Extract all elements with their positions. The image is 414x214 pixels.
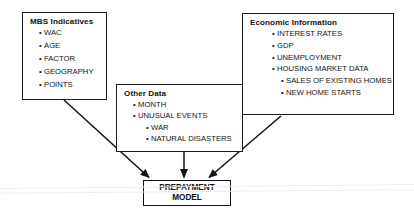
box-item-list: •WAC •AGE •FACTOR •GEOGRAPHY •POINTS — [30, 29, 100, 89]
list-item: •UNEMPLOYMENT — [250, 54, 387, 62]
list-item-label: FACTOR — [44, 54, 75, 63]
list-item-label: SALES OF EXISTING HOMES — [286, 76, 392, 85]
list-item-label: NATURAL DISASTERS — [151, 134, 232, 143]
list-item: •INTEREST RATES — [250, 30, 387, 38]
box-mbs-indicatives: MBS Indicatives •WAC •AGE •FACTOR •GEOGR… — [22, 12, 107, 100]
list-item: •WAR — [124, 124, 236, 132]
list-item-label: UNEMPLOYMENT — [277, 53, 342, 62]
list-item: •UNUSUAL EVENTS — [124, 112, 236, 120]
list-item-label: WAC — [44, 28, 62, 37]
box-other-data: Other Data •MONTH •UNUSUAL EVENTS •WAR •… — [116, 84, 243, 152]
list-item: •HOUSING MARKET DATA — [250, 65, 387, 73]
list-item-label: MONTH — [138, 100, 166, 109]
box-header: MBS Indicatives — [30, 18, 100, 26]
list-item: •SALES OF EXISTING HOMES — [250, 77, 387, 85]
box-item-list: •INTEREST RATES •GDP •UNEMPLOYMENT •HOUS… — [250, 30, 387, 97]
list-item-label: NEW HOME STARTS — [286, 88, 361, 97]
list-item-label: UNUSUAL EVENTS — [138, 111, 207, 120]
list-item-label: WAR — [151, 123, 169, 132]
prepayment-model-line2: MODEL — [172, 193, 202, 203]
list-item: •GDP — [250, 42, 387, 50]
box-header: Economic Information — [250, 19, 387, 27]
list-item: •NATURAL DISASTERS — [124, 135, 236, 143]
list-item: •GEOGRAPHY — [30, 68, 100, 76]
list-item: •NEW HOME STARTS — [250, 89, 387, 97]
list-item-label: HOUSING MARKET DATA — [277, 64, 368, 73]
box-prepayment-model: PREPAYMENT MODEL — [143, 180, 231, 206]
list-item-label: INTEREST RATES — [277, 29, 342, 38]
box-item-list: •MONTH •UNUSUAL EVENTS •WAR •NATURAL DIS… — [124, 101, 236, 143]
list-item-label: POINTS — [44, 80, 73, 89]
list-item: •AGE — [30, 42, 100, 50]
list-item: •POINTS — [30, 81, 100, 89]
list-item: •WAC — [30, 29, 100, 37]
list-item: •MONTH — [124, 101, 236, 109]
box-header: Other Data — [124, 90, 236, 98]
diagram-canvas: MBS Indicatives •WAC •AGE •FACTOR •GEOGR… — [0, 0, 414, 214]
box-economic-information: Economic Information •INTEREST RATES •GD… — [242, 13, 394, 115]
list-item-label: AGE — [44, 41, 60, 50]
prepayment-model-line1: PREPAYMENT — [159, 183, 215, 193]
list-item-label: GEOGRAPHY — [44, 67, 94, 76]
list-item-label: GDP — [277, 41, 294, 50]
list-item: •FACTOR — [30, 55, 100, 63]
